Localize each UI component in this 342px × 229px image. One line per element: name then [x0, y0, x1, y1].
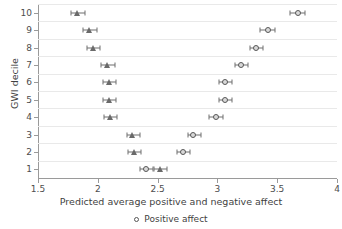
- y-tick-label: 1: [12, 164, 32, 174]
- confidence-interval-cap: [231, 97, 232, 102]
- data-point-positive-affect: [265, 27, 271, 33]
- confidence-interval-cap: [139, 167, 140, 172]
- data-point-negative-affect: [129, 132, 135, 138]
- confidence-interval-cap: [167, 167, 168, 172]
- confidence-interval-cap: [249, 45, 250, 50]
- confidence-interval-cap: [96, 28, 97, 33]
- y-tick-label: 2: [12, 147, 32, 157]
- confidence-interval-cap: [218, 80, 219, 85]
- data-point-negative-affect: [107, 114, 113, 120]
- y-tick-label: 10: [12, 8, 32, 18]
- confidence-interval-cap: [154, 167, 155, 172]
- data-point-positive-affect: [238, 62, 244, 68]
- confidence-interval-cap: [139, 132, 140, 137]
- confidence-interval-cap: [200, 132, 201, 137]
- confidence-interval-cap: [115, 97, 116, 102]
- data-point-negative-affect: [86, 27, 92, 33]
- y-tick: [34, 48, 38, 49]
- y-tick: [34, 117, 38, 118]
- x-tick-label: 4: [334, 184, 340, 195]
- data-point-positive-affect: [222, 97, 228, 103]
- x-tick: [98, 179, 99, 183]
- data-point-positive-affect: [222, 79, 228, 85]
- confidence-interval-cap: [71, 10, 72, 15]
- gridline: [38, 161, 337, 162]
- confidence-interval-cap: [189, 149, 190, 154]
- confidence-interval-cap: [115, 80, 116, 85]
- data-point-positive-affect: [253, 45, 259, 51]
- x-tick-label: 3: [215, 184, 221, 195]
- y-tick: [34, 152, 38, 153]
- y-tick: [34, 82, 38, 83]
- x-tick: [217, 179, 218, 183]
- x-tick-label: 2: [95, 184, 101, 195]
- confidence-interval-cap: [114, 62, 115, 67]
- confidence-interval-cap: [290, 10, 291, 15]
- data-point-negative-affect: [104, 62, 110, 68]
- confidence-interval-cap: [127, 149, 128, 154]
- confidence-interval-cap: [83, 28, 84, 33]
- gridline: [38, 126, 337, 127]
- gridline: [38, 56, 337, 57]
- data-point-negative-affect: [90, 45, 96, 51]
- confidence-interval-cap: [231, 80, 232, 85]
- gridline: [38, 21, 337, 22]
- confidence-interval-cap: [223, 115, 224, 120]
- data-point-negative-affect: [106, 97, 112, 103]
- y-tick: [34, 169, 38, 170]
- affect-by-gwi-decile-chart: 1.522.533.54 12345678910 Predicted avera…: [0, 0, 342, 229]
- data-point-positive-affect: [190, 132, 196, 138]
- gridline: [38, 143, 337, 144]
- y-tick: [34, 100, 38, 101]
- confidence-interval-cap: [262, 45, 263, 50]
- gridline: [38, 74, 337, 75]
- x-tick-label: 3.5: [270, 184, 284, 195]
- confidence-interval-cap: [103, 115, 104, 120]
- x-axis-line: [38, 178, 337, 179]
- x-tick-label: 1.5: [31, 184, 45, 195]
- x-tick: [277, 179, 278, 183]
- data-point-negative-affect: [74, 10, 80, 16]
- confidence-interval-cap: [84, 10, 85, 15]
- data-point-positive-affect: [213, 114, 219, 120]
- confidence-interval-cap: [176, 149, 177, 154]
- confidence-interval-cap: [260, 28, 261, 33]
- confidence-interval-cap: [140, 149, 141, 154]
- x-tick-label: 2.5: [150, 184, 164, 195]
- gridline: [38, 39, 337, 40]
- gridline: [38, 4, 337, 5]
- gridline: [38, 91, 337, 92]
- y-tick-label: 9: [12, 25, 32, 35]
- plot-area: [38, 4, 337, 178]
- confidence-interval-cap: [209, 115, 210, 120]
- data-point-positive-affect: [295, 10, 301, 16]
- confidence-interval-cap: [102, 80, 103, 85]
- confidence-interval-cap: [116, 115, 117, 120]
- confidence-interval-cap: [87, 45, 88, 50]
- y-tick: [34, 135, 38, 136]
- confidence-interval-cap: [235, 62, 236, 67]
- x-tick: [337, 179, 338, 183]
- confidence-interval-cap: [100, 45, 101, 50]
- confidence-interval-cap: [187, 132, 188, 137]
- legend-label-positive-affect: Positive affect: [144, 214, 207, 225]
- confidence-interval-cap: [101, 62, 102, 67]
- y-tick: [34, 13, 38, 14]
- confidence-interval-cap: [274, 28, 275, 33]
- y-axis-title: GWI decile: [9, 36, 20, 132]
- legend-circle-icon: [134, 217, 139, 222]
- data-point-positive-affect: [143, 166, 149, 172]
- y-tick: [34, 30, 38, 31]
- y-tick: [34, 65, 38, 66]
- confidence-interval-cap: [248, 62, 249, 67]
- data-point-positive-affect: [180, 149, 186, 155]
- confidence-interval-cap: [126, 132, 127, 137]
- x-tick: [158, 179, 159, 183]
- gridline: [38, 108, 337, 109]
- x-tick: [38, 179, 39, 183]
- data-point-negative-affect: [157, 166, 163, 172]
- data-point-negative-affect: [131, 149, 137, 155]
- data-point-negative-affect: [106, 79, 112, 85]
- confidence-interval-cap: [102, 97, 103, 102]
- confidence-interval-cap: [304, 10, 305, 15]
